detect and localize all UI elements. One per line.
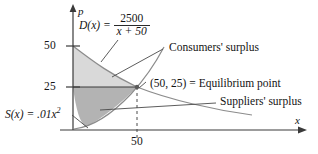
x-axis-label: x — [295, 115, 300, 126]
equilibrium-point-marker — [135, 85, 139, 89]
y-axis-arrowhead — [70, 4, 77, 12]
y-tick-label-25: 25 — [44, 81, 56, 93]
demand-function-fraction: 2500 x + 50 — [114, 13, 150, 37]
supply-function-label: S(x) = .01x2 — [5, 107, 61, 120]
leader-demand-equation — [101, 40, 118, 62]
demand-function-lhs: D(x) = — [79, 20, 111, 32]
surplus-diagram: p x 50 25 50 D(x) = 2500 x + 50 S(x) = .… — [0, 0, 318, 154]
suppliers-surplus-label: Suppliers' surplus — [220, 96, 302, 108]
demand-function-numerator: 2500 — [114, 13, 150, 26]
supply-function-exponent: 2 — [57, 106, 61, 115]
x-axis-arrowhead — [298, 126, 307, 133]
y-tick-label-50: 50 — [44, 40, 56, 52]
equilibrium-point-label: (50, 25) = Equilibrium point — [150, 78, 281, 90]
x-tick-label-50: 50 — [131, 136, 143, 148]
consumers-surplus-label: Consumers' surplus — [169, 42, 259, 54]
consumers-surplus-region — [73, 46, 137, 87]
demand-function-label: D(x) = 2500 x + 50 — [79, 14, 150, 38]
demand-function-denominator: x + 50 — [114, 26, 150, 38]
supply-function-text: S(x) = .01x — [5, 108, 57, 120]
suppliers-surplus-region — [73, 87, 137, 127]
